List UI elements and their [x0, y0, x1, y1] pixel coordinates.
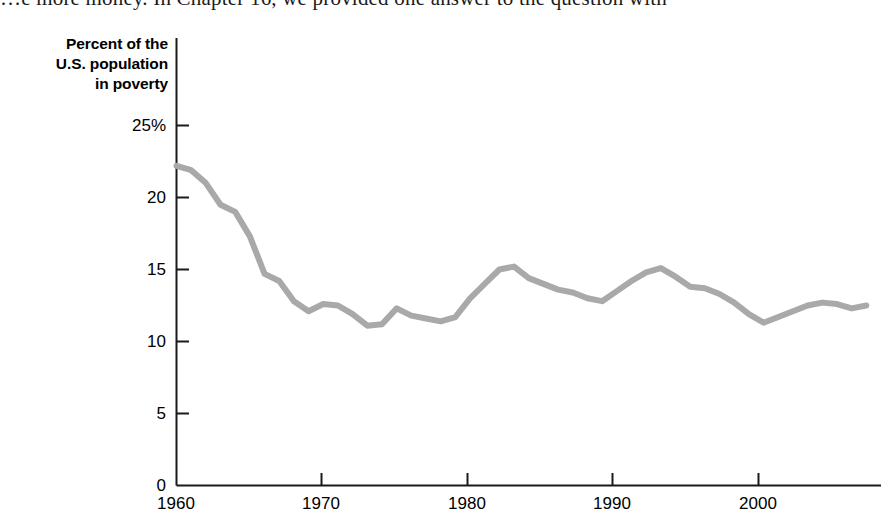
poverty-rate-line-chart: Percent of the U.S. population in povert…	[0, 0, 893, 526]
x-axis-ticks	[322, 473, 759, 486]
plot-area	[0, 0, 893, 526]
poverty-rate-series-line	[177, 166, 867, 326]
